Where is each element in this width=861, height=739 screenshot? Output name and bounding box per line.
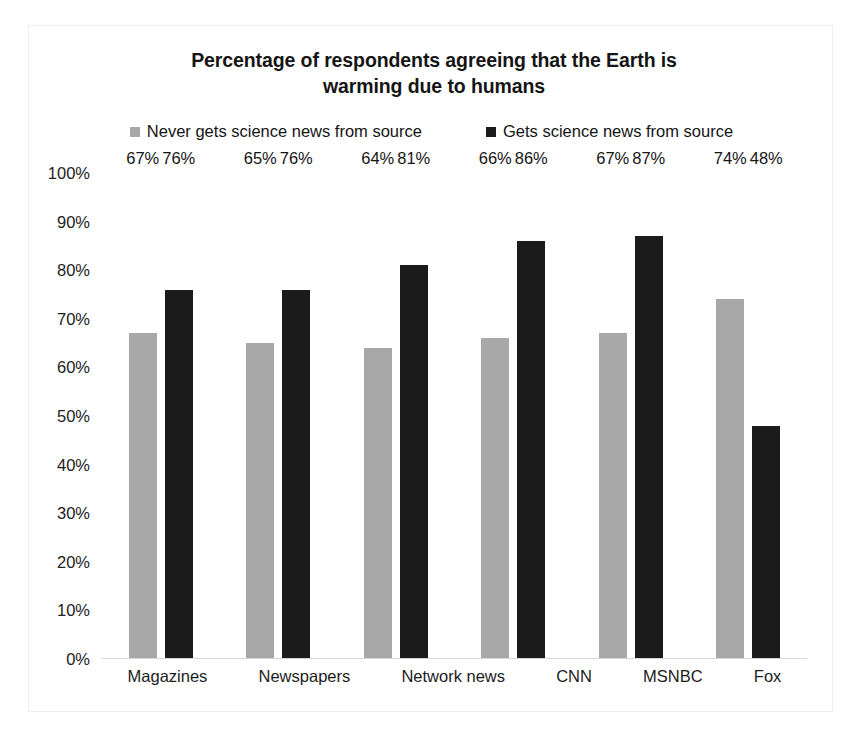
x-axis-category-label: Magazines [128,667,208,686]
bar-group: 74%48% [716,173,780,659]
bar[interactable]: 81% [400,265,428,659]
bar-value-label: 76% [162,149,195,168]
bar-value-label: 86% [515,149,548,168]
bar-column: 67% [129,173,157,659]
bar[interactable]: 65% [246,343,274,659]
bar-value-label: 67% [126,149,159,168]
bar-group: 65%76% [246,173,310,659]
bar-column: 81% [400,173,428,659]
bar[interactable]: 76% [282,290,310,659]
bar[interactable]: 66% [481,338,509,659]
bar-value-label: 67% [596,149,629,168]
bar[interactable]: 67% [599,333,627,659]
bar[interactable]: 67% [129,333,157,659]
chart-container: Percentage of respondents agreeing that … [28,25,833,712]
y-axis-tick-label: 60% [57,358,90,377]
legend-label-never-gets-science-news: Never gets science news from source [147,122,422,141]
bar[interactable]: 76% [165,290,193,659]
chart-title: Percentage of respondents agreeing that … [89,48,779,99]
bar-column: 66% [481,173,509,659]
bar-value-label: 76% [280,149,313,168]
y-axis-tick-label: 100% [48,164,90,183]
bar-column: 87% [635,173,663,659]
bar-value-label: 87% [632,149,665,168]
y-axis-tick-label: 80% [57,261,90,280]
y-axis-tick-label: 30% [57,504,90,523]
bar-column: 76% [282,173,310,659]
bar[interactable]: 74% [716,299,744,659]
bar-column: 76% [165,173,193,659]
bar[interactable]: 64% [364,348,392,659]
bar-column: 67% [599,173,627,659]
plot-area: 0%10%20%30%40%50%60%70%80%90%100% 67%76%… [102,173,807,659]
x-axis-category-label: Fox [754,667,782,686]
bar-column: 74% [716,173,744,659]
bar-column: 65% [246,173,274,659]
x-axis-category-label: MSNBC [643,667,703,686]
legend-item-gets-science-news: Gets science news from source [486,122,733,141]
bar-group: 67%76% [129,173,193,659]
bar-column: 48% [752,173,780,659]
y-axis-tick-label: 20% [57,552,90,571]
bar-column: 64% [364,173,392,659]
x-axis-category-label: CNN [556,667,592,686]
y-axis-tick-label: 10% [57,601,90,620]
bar-value-label: 66% [479,149,512,168]
bar-column: 86% [517,173,545,659]
x-axis-line [102,658,807,659]
bar-group: 67%87% [599,173,663,659]
legend-item-never-gets-science-news: Never gets science news from source [130,122,422,141]
y-axis-tick-label: 50% [57,407,90,426]
bar-value-label: 64% [361,149,394,168]
bar-group: 66%86% [481,173,545,659]
y-axis-tick-label: 0% [66,650,90,669]
y-axis-tick-label: 70% [57,309,90,328]
legend-swatch-never-gets-science-news [130,127,140,137]
y-axis-tick-label: 40% [57,455,90,474]
bar-value-label: 74% [714,149,747,168]
bar-value-label: 48% [750,149,783,168]
y-axis-tick-label: 90% [57,212,90,231]
legend-label-gets-science-news: Gets science news from source [503,122,733,141]
bar[interactable]: 86% [517,241,545,659]
x-axis-labels: MagazinesNewspapersNetwork newsCNNMSNBCF… [102,667,807,686]
chart-title-line-2: warming due to humans [323,75,545,97]
legend-swatch-gets-science-news [486,127,496,137]
x-axis-category-label: Newspapers [259,667,351,686]
bar-groups: 67%76%65%76%64%81%66%86%67%87%74%48% [102,173,807,659]
chart-title-line-1: Percentage of respondents agreeing that … [191,49,677,71]
bar[interactable]: 87% [635,236,663,659]
x-axis-category-label: Network news [401,667,505,686]
bar-value-label: 81% [397,149,430,168]
bar-group: 64%81% [364,173,428,659]
chart-legend: Never gets science news from source Gets… [29,122,834,141]
bar[interactable]: 48% [752,426,780,659]
bar-value-label: 65% [244,149,277,168]
